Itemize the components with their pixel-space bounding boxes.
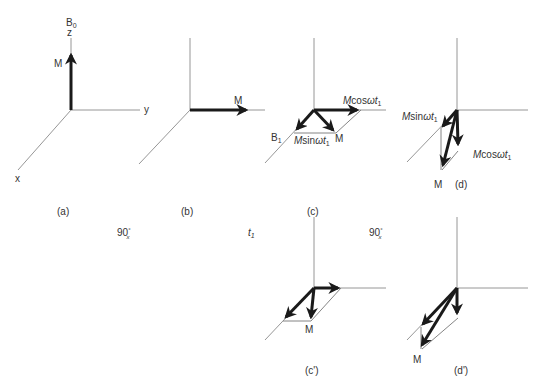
m-label: M: [305, 324, 313, 335]
evolution-label: t1: [248, 227, 255, 239]
pulse-label-2: 90°x: [369, 227, 383, 240]
b1-label: B1: [271, 132, 282, 144]
msin-vector: [297, 110, 314, 129]
pulse-label-1: 90°x: [117, 227, 131, 240]
y-label: y: [144, 104, 149, 115]
caption-b: (b): [181, 206, 193, 217]
z-label: z: [67, 27, 72, 38]
magnetization-vector: [422, 288, 457, 345]
m-label: M: [434, 179, 442, 190]
m-label: M: [54, 58, 62, 69]
panel-c-prime: M (c'): [265, 217, 386, 376]
caption-d: (d): [455, 179, 467, 190]
panel-d: Msinωt1 Mcosωt1 M (d): [402, 38, 528, 190]
panel-a: B0 z M y x (a): [15, 17, 149, 217]
caption-a: (a): [57, 206, 69, 217]
x-axis: [18, 110, 71, 170]
panel-c: Mcosωt1 B1 Msinωt1 M (c): [265, 38, 386, 217]
msin-label: Msinωt1: [294, 135, 330, 147]
msin-label: Msinωt1: [402, 111, 438, 123]
x-label: x: [15, 173, 20, 184]
x-component-vector: [286, 288, 314, 317]
m-label: M: [234, 95, 242, 106]
panel-d-prime: M (d'): [407, 217, 528, 376]
x-component-vector: [423, 288, 457, 324]
mcos-label: Mcosωt1: [343, 95, 381, 107]
parallelogram-edge: [311, 288, 341, 321]
m-label: M: [413, 354, 421, 365]
m-label: M: [335, 133, 343, 144]
mcos-label: Mcosωt1: [473, 149, 511, 161]
magnetization-vector: [314, 110, 333, 130]
caption-c-prime: (c'): [305, 365, 319, 376]
x-axis: [139, 110, 190, 164]
panel-b: M (b): [139, 38, 265, 217]
caption-c: (c): [307, 206, 319, 217]
parallelogram-edge: [336, 110, 361, 133]
nmr-vector-diagram: B0 z M y x (a) 90°x M (b) t1 Mcosωt1 B1 …: [0, 0, 543, 383]
caption-d-prime: (d'): [454, 365, 468, 376]
